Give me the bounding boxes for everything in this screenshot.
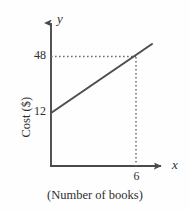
graph-figure: 48 12 6 y x Cost ($) (Number of books) — [0, 0, 190, 212]
y-tick-label-48: 48 — [28, 49, 46, 61]
x-axis-variable-label: x — [172, 158, 178, 171]
y-axis-title: Cost ($) — [20, 74, 33, 160]
x-tick-label-6: 6 — [131, 170, 142, 182]
y-axis-variable-label: y — [57, 12, 63, 25]
x-axis-caption: (Number of books) — [0, 189, 190, 202]
cost-line-series — [51, 44, 152, 113]
